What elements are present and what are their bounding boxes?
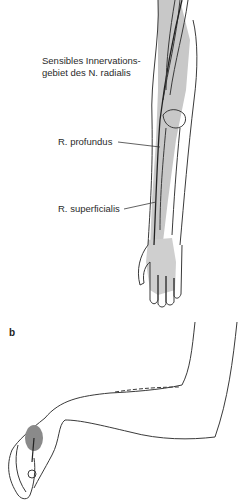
label-r-superficialis: R. superficialis	[58, 203, 120, 214]
label-innervation-line2: gebiet des N. radialis	[42, 67, 131, 78]
panel-b-arm	[9, 322, 237, 499]
panel-a-arm	[138, 0, 196, 307]
label-r-profundus: R. profundus	[58, 136, 112, 147]
radial-nerve-illustration: Sensibles Innervations- gebiet des N. ra…	[0, 0, 246, 502]
label-innervation-line1: Sensibles Innervations-	[42, 55, 141, 66]
panel-letter-b: b	[9, 327, 15, 338]
